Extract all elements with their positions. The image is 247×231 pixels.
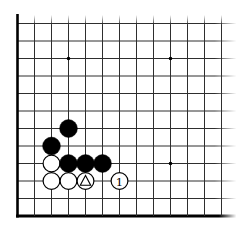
board-background — [0, 0, 247, 231]
go-diagram-page: 1 — [0, 0, 247, 231]
white-stone — [60, 173, 77, 190]
star-point — [169, 162, 173, 166]
white-stone — [43, 173, 60, 190]
black-stone — [60, 120, 78, 138]
black-stone — [77, 155, 95, 173]
black-stone — [60, 155, 78, 173]
star-point — [169, 57, 173, 61]
star-point — [67, 57, 71, 61]
white-stone — [43, 155, 60, 172]
black-stone — [43, 137, 61, 155]
go-board: 1 — [0, 0, 247, 231]
move-number-label: 1 — [116, 175, 123, 189]
black-stone — [94, 155, 112, 173]
